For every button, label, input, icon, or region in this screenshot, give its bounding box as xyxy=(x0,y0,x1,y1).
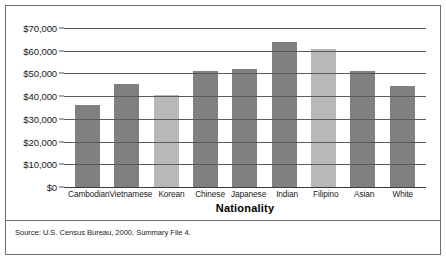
x-axis-labels: CambodianVietnameseKoreanChineseJapanese… xyxy=(64,189,426,199)
x-tick-label: Filipino xyxy=(306,189,345,199)
x-tick-label: Indian xyxy=(268,189,307,199)
y-tick-label: $20,000 xyxy=(23,136,57,147)
x-tick-label: Asian xyxy=(345,189,384,199)
y-tick-label: $70,000 xyxy=(23,23,57,34)
chart-screenshot: $70,000$60,000$50,000$40,000$30,000$20,0… xyxy=(0,0,446,260)
bar xyxy=(193,71,218,187)
bar xyxy=(75,105,100,187)
x-tick-label: Korean xyxy=(152,189,191,199)
gridline xyxy=(64,51,426,52)
plot-area xyxy=(64,6,426,211)
bar xyxy=(350,71,375,187)
axis-baseline xyxy=(64,187,426,188)
gridline xyxy=(64,164,426,165)
x-tick-label: White xyxy=(384,189,423,199)
gridline xyxy=(64,119,426,120)
gridline xyxy=(64,142,426,143)
y-axis: $70,000$60,000$50,000$40,000$30,000$20,0… xyxy=(6,6,64,211)
bar xyxy=(232,69,257,187)
x-tick-label: Chinese xyxy=(191,189,230,199)
bar xyxy=(272,42,297,187)
y-tick-label: $30,000 xyxy=(23,113,57,124)
x-axis-title: Nationality xyxy=(64,202,426,214)
y-tick-label: $60,000 xyxy=(23,45,57,56)
x-tick-label: Vietnamese xyxy=(110,189,153,199)
gridline xyxy=(64,28,426,29)
gridline xyxy=(64,96,426,97)
y-tick-label: $50,000 xyxy=(23,68,57,79)
source-note: Source: U.S. Census Bureau, 2000, Summar… xyxy=(15,228,191,237)
gridline xyxy=(64,73,426,74)
source-separator xyxy=(6,220,440,221)
y-tick-label: $40,000 xyxy=(23,91,57,102)
bar xyxy=(390,86,415,187)
figure-frame: $70,000$60,000$50,000$40,000$30,000$20,0… xyxy=(5,5,441,255)
bar xyxy=(114,84,139,187)
y-tick-label: $10,000 xyxy=(23,159,57,170)
x-tick-label: Cambodian xyxy=(68,189,110,199)
y-tick-label: $0 xyxy=(47,182,57,193)
plot-wrapper: $70,000$60,000$50,000$40,000$30,000$20,0… xyxy=(6,6,442,211)
x-tick-label: Japanese xyxy=(229,189,268,199)
